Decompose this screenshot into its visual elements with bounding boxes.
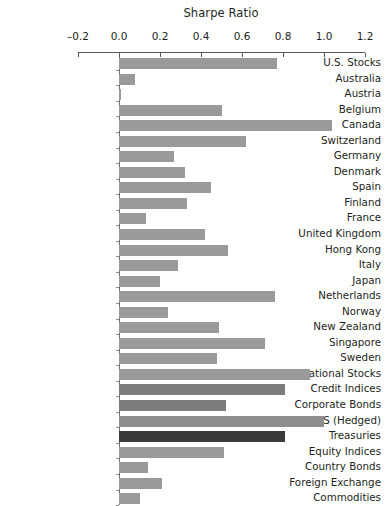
x-tick-mark bbox=[324, 53, 325, 57]
bar-row: International Stocks bbox=[0, 367, 386, 383]
category-label: U.S. Stocks bbox=[273, 56, 386, 70]
bar-row: France bbox=[0, 211, 386, 227]
x-tick-mark bbox=[242, 53, 243, 57]
category-label: Sweden bbox=[273, 351, 386, 365]
category-label: Japan bbox=[273, 274, 386, 288]
bar-row: CDS (Hedged) bbox=[0, 414, 386, 430]
bar-row: Singapore bbox=[0, 336, 386, 352]
x-tick-mark bbox=[283, 53, 284, 57]
bar bbox=[119, 120, 332, 131]
category-label: Spain bbox=[273, 180, 386, 194]
x-tick-label: 0.4 bbox=[193, 30, 210, 42]
bar-row: Credit Indices bbox=[0, 382, 386, 398]
bar bbox=[119, 260, 178, 271]
chart-title: Sharpe Ratio bbox=[0, 6, 386, 20]
bar bbox=[119, 384, 285, 395]
x-tick-label: 0.8 bbox=[275, 30, 292, 42]
bar bbox=[119, 74, 135, 85]
category-label: Netherlands bbox=[273, 289, 386, 303]
category-label: Austria bbox=[273, 87, 386, 101]
x-tick-label: 1.0 bbox=[316, 30, 333, 42]
bar-row: Commodities bbox=[0, 491, 386, 506]
bar bbox=[119, 198, 187, 209]
bar bbox=[119, 338, 265, 349]
category-label: Corporate Bonds bbox=[273, 398, 386, 412]
category-label: Singapore bbox=[273, 336, 386, 350]
bar-row: Equity Indices bbox=[0, 445, 386, 461]
bar bbox=[119, 276, 160, 287]
bar-row: Sweden bbox=[0, 351, 386, 367]
bar bbox=[119, 58, 277, 69]
x-tick-mark bbox=[201, 53, 202, 57]
x-tick-mark bbox=[119, 53, 120, 57]
bar-row: Canada bbox=[0, 118, 386, 134]
bar bbox=[119, 462, 148, 473]
bar-row: Austria bbox=[0, 87, 386, 103]
x-tick-label: 1.2 bbox=[357, 30, 374, 42]
category-label: Denmark bbox=[273, 165, 386, 179]
bar-row: Japan bbox=[0, 274, 386, 290]
bar-row: Denmark bbox=[0, 165, 386, 181]
category-label: Foreign Exchange bbox=[273, 476, 386, 490]
bar bbox=[119, 291, 275, 302]
bar-row: Treasuries bbox=[0, 429, 386, 445]
category-label: Commodities bbox=[273, 491, 386, 505]
bar bbox=[119, 167, 185, 178]
x-tick-mark bbox=[78, 53, 79, 57]
bar bbox=[119, 369, 310, 380]
bar-row: Australia bbox=[0, 72, 386, 88]
bar bbox=[119, 493, 140, 504]
x-tick-label: 0.0 bbox=[111, 30, 128, 42]
bar bbox=[119, 105, 222, 116]
bar bbox=[119, 478, 162, 489]
bar-row: Belgium bbox=[0, 103, 386, 119]
bar-row: Switzerland bbox=[0, 134, 386, 150]
bar bbox=[119, 400, 226, 411]
category-label: Switzerland bbox=[273, 134, 386, 148]
bar-row: Finland bbox=[0, 196, 386, 212]
category-label: Italy bbox=[273, 258, 386, 272]
category-label: Finland bbox=[273, 196, 386, 210]
category-label: Norway bbox=[273, 305, 386, 319]
category-label: Hong Kong bbox=[273, 243, 386, 257]
bar-row: U.S. Stocks bbox=[0, 56, 386, 72]
bar bbox=[119, 151, 174, 162]
bar-row: New Zealand bbox=[0, 320, 386, 336]
bar bbox=[119, 182, 211, 193]
x-tick-mark bbox=[160, 53, 161, 57]
bar-row: Italy bbox=[0, 258, 386, 274]
category-label: Treasuries bbox=[273, 429, 386, 443]
bar-rows: U.S. StocksAustraliaAustriaBelgiumCanada… bbox=[0, 56, 386, 506]
bar bbox=[119, 416, 324, 427]
category-label: New Zealand bbox=[273, 320, 386, 334]
bar-row: Netherlands bbox=[0, 289, 386, 305]
sharpe-ratio-bar-chart: Sharpe Ratio –0.20.00.20.40.60.81.01.2 U… bbox=[0, 0, 386, 506]
bar bbox=[119, 322, 219, 333]
bar bbox=[119, 89, 121, 100]
bar bbox=[119, 229, 205, 240]
category-label: Equity Indices bbox=[273, 445, 386, 459]
bar-row: United Kingdom bbox=[0, 227, 386, 243]
x-tick-label: 0.2 bbox=[152, 30, 169, 42]
category-label: Germany bbox=[273, 149, 386, 163]
x-axis-tick-labels: –0.20.00.20.40.60.81.01.2 bbox=[0, 30, 386, 46]
category-label: United Kingdom bbox=[273, 227, 386, 241]
category-label: Belgium bbox=[273, 103, 386, 117]
bar-row: Corporate Bonds bbox=[0, 398, 386, 414]
bar-row: Hong Kong bbox=[0, 243, 386, 259]
bar bbox=[119, 431, 285, 442]
category-label: France bbox=[273, 211, 386, 225]
bar bbox=[119, 353, 217, 364]
bar-row: Norway bbox=[0, 305, 386, 321]
bar-row: Foreign Exchange bbox=[0, 476, 386, 492]
bar-row: Germany bbox=[0, 149, 386, 165]
category-label: Country Bonds bbox=[273, 460, 386, 474]
bar bbox=[119, 307, 168, 318]
category-label: Credit Indices bbox=[273, 382, 386, 396]
bar-row: Spain bbox=[0, 180, 386, 196]
category-label: Australia bbox=[273, 72, 386, 86]
x-tick-label: –0.2 bbox=[67, 30, 89, 42]
bar bbox=[119, 213, 146, 224]
bar bbox=[119, 447, 224, 458]
bar bbox=[119, 245, 228, 256]
